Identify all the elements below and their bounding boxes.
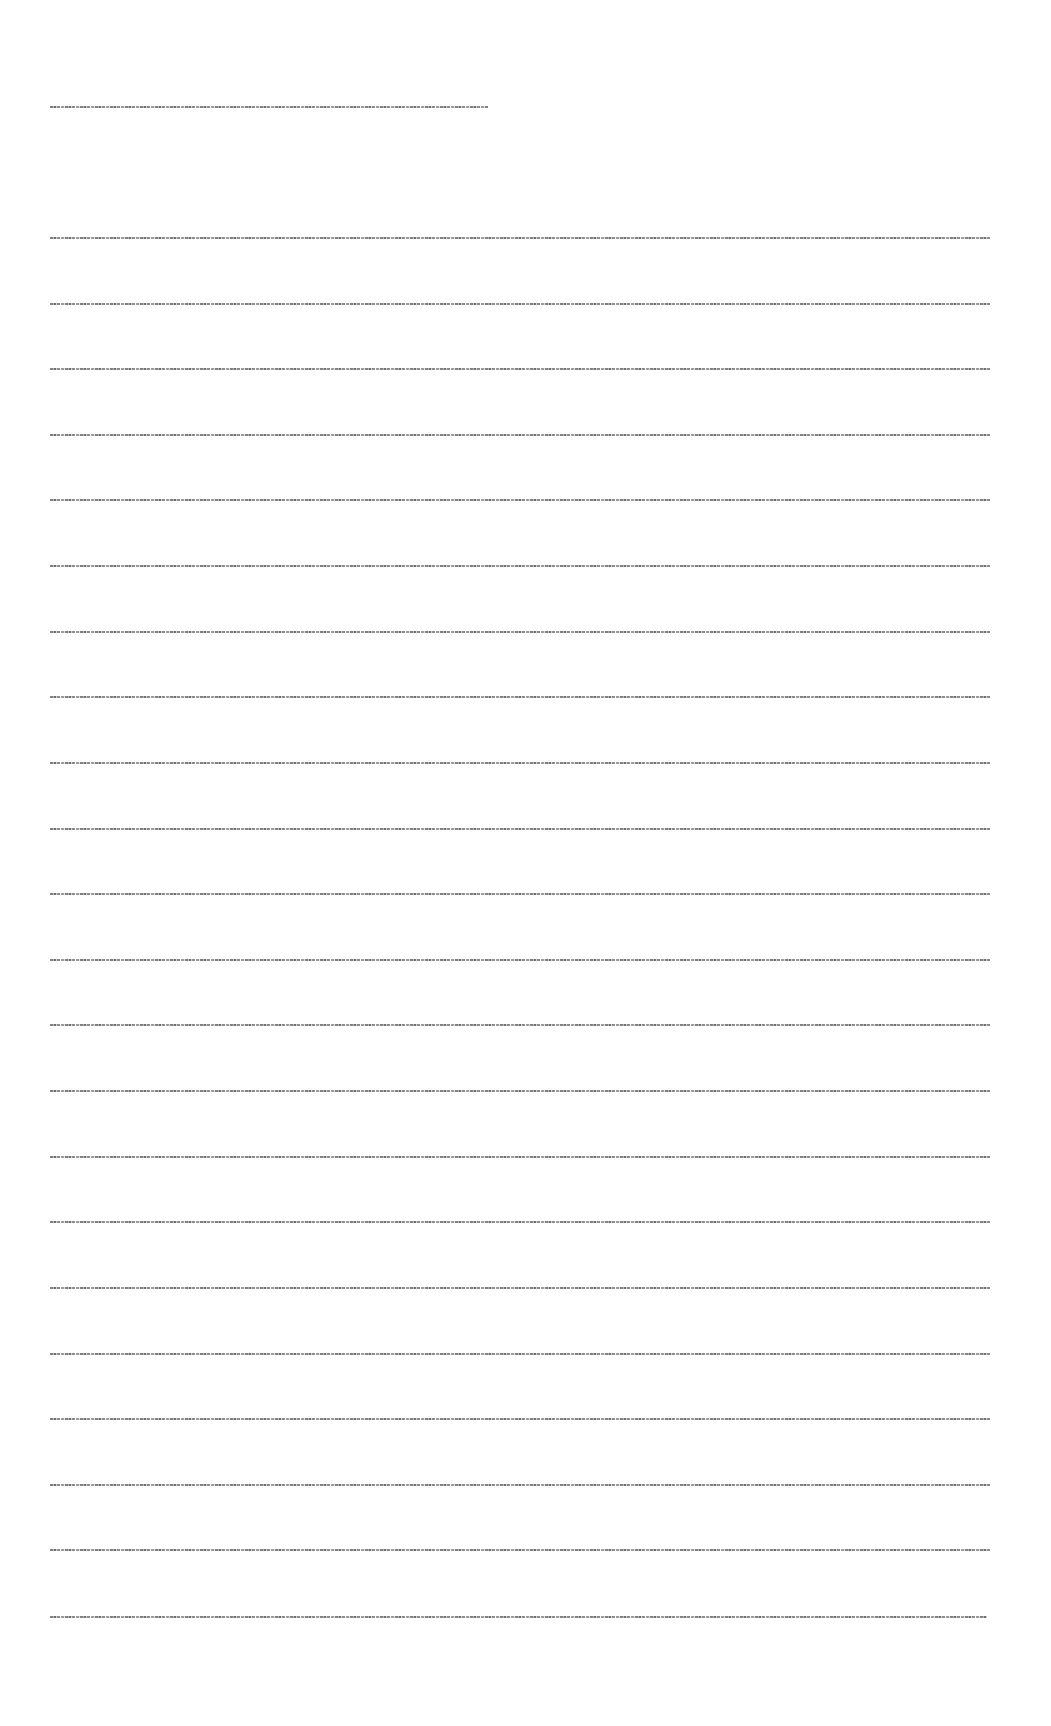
body-text-line-text: [illegible line 10] [50,822,990,824]
body-text-line-text: [illegible line 6] [50,559,990,561]
body-text-line: [illegible line 7] [50,631,990,633]
heading-line-text: [illegible heading text] [50,100,488,102]
body-text-line-text: [illegible line 11] [50,887,990,889]
body-text-line-text: [illegible line 5] [50,493,990,495]
body-text-line: [illegible line 1] [50,237,990,239]
body-text-line: [illegible line 10] [50,828,990,830]
body-text-line-text: [illegible line 3] [50,362,990,364]
body-text-line-text: [illegible line 18] [50,1347,990,1349]
body-text-line: [illegible line 20] [50,1484,990,1486]
body-text-line-text: [illegible line 20] [50,1478,990,1480]
body-text-line: [illegible line 17] [50,1287,990,1289]
body-text-line: [illegible line 21] [50,1549,990,1551]
body-text-line: [illegible line 12] [50,959,990,961]
body-text-line: [illegible line 3] [50,368,990,370]
body-text-line: [illegible line 9] [50,762,990,764]
body-text-line: [illegible line 6] [50,565,990,567]
body-text-line: [illegible line 14] [50,1090,990,1092]
body-text-line: [illegible line 8] [50,696,990,698]
body-text-line: [illegible line 2] [50,303,990,305]
body-text-line-text: [illegible line 1] [50,231,990,233]
body-text-line: [illegible line 18] [50,1353,990,1355]
body-text-line-text: [illegible line 16] [50,1215,990,1217]
body-text-line: [illegible line 15] [50,1156,990,1158]
body-text-line: [illegible line 13] [50,1024,990,1026]
body-text-line: [illegible line 5] [50,499,990,501]
heading-line: [illegible heading text] [50,106,488,108]
body-text-line-text: [illegible line 14] [50,1084,990,1086]
body-text-line-text: [illegible line 7] [50,625,990,627]
body-text-line: [illegible line 11] [50,893,990,895]
body-text-line: [illegible line 4] [50,434,990,436]
body-text-line-text: [illegible line 21] [50,1543,990,1545]
body-text-line: [illegible line 22] [50,1616,987,1618]
body-text-line-text: [illegible line 12] [50,953,990,955]
body-text-line: [illegible line 16] [50,1221,990,1223]
body-text-line-text: [illegible line 4] [50,428,990,430]
body-text-line-text: [illegible line 15] [50,1150,990,1152]
body-text-line-text: [illegible line 22] [50,1610,987,1612]
body-text-line-text: [illegible line 13] [50,1018,990,1020]
body-text-line-text: [illegible line 2] [50,297,990,299]
body-text-line-text: [illegible line 9] [50,756,990,758]
body-text-line: [illegible line 19] [50,1418,990,1420]
body-text-line-text: [illegible line 19] [50,1412,990,1414]
body-text-line-text: [illegible line 17] [50,1281,990,1283]
body-text-line-text: [illegible line 8] [50,690,990,692]
